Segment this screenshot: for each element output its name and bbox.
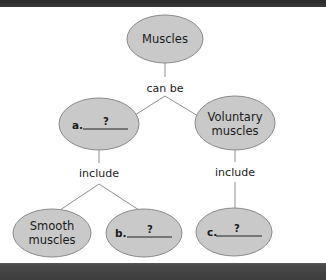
connector-canbe-to-a (135, 96, 165, 115)
node-voluntary-line1: Voluntary (208, 110, 263, 124)
node-smooth-muscles: Smooth muscles (13, 209, 91, 257)
node-voluntary-line2: muscles (211, 124, 258, 138)
node-a-question: ? (103, 116, 109, 127)
node-b-question: ? (147, 224, 153, 235)
node-a-blank: a. ? (59, 98, 139, 150)
concept-map-frame: Muscles can be a. ? Voluntary muscles in… (0, 0, 326, 280)
node-c-letter: c. (207, 226, 217, 238)
connector-canbe-to-voluntary (165, 96, 198, 116)
node-voluntary-muscles: Voluntary muscles (195, 96, 275, 150)
node-b-letter: b. (115, 227, 127, 239)
link-label-include-right: include (215, 166, 255, 179)
connector-include-to-b (99, 184, 139, 210)
bottom-frame-bar (0, 263, 326, 280)
node-b-blank: b. ? (106, 209, 182, 257)
node-c-blank: c. ? (196, 208, 272, 256)
node-smooth-line2: muscles (28, 233, 75, 247)
link-label-include-left: include (79, 167, 119, 180)
node-c-question: ? (234, 223, 240, 234)
node-muscles: Muscles (127, 15, 203, 63)
link-label-can-be: can be (146, 82, 183, 95)
connector-include-to-smooth (60, 184, 99, 210)
node-muscles-label: Muscles (142, 32, 188, 46)
node-a-letter: a. (72, 119, 83, 131)
node-smooth-line1: Smooth (30, 219, 74, 233)
concept-map: Muscles can be a. ? Voluntary muscles in… (0, 0, 326, 280)
